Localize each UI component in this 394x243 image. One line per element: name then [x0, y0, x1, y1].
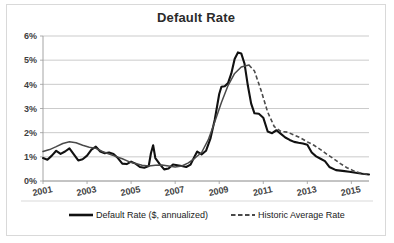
x-tick-label: 2013 [296, 184, 318, 198]
x-tick-label: 2007 [164, 184, 186, 198]
legend-label-default-rate: Default Rate ($, annualized) [96, 210, 208, 220]
x-tick-label: 2011 [252, 184, 273, 198]
series-line-historic-average-solid-part [43, 65, 249, 167]
y-axis-tick-labels: 0%1%2%3%4%5%6% [24, 31, 37, 186]
data-series-layer [43, 52, 369, 174]
series-line-default-rate [43, 52, 369, 174]
y-tick-label: 1% [24, 152, 37, 162]
y-tick-label: 2% [24, 128, 37, 138]
y-tick-label: 5% [24, 55, 37, 65]
series-line-historic-average-dashed-part [249, 65, 369, 174]
x-tick-label: 2003 [76, 184, 98, 198]
y-tick-label: 0% [24, 176, 37, 186]
default-rate-line-chart: 0%1%2%3%4%5%6% 2001200320052007200920112… [7, 5, 387, 237]
y-tick-label: 4% [24, 80, 37, 90]
axes [40, 36, 369, 184]
legend-label-historic-average: Historic Average Rate [258, 210, 345, 220]
chart-card: Default Rate 0%1%2%3%4%5%6% 200120032005… [6, 4, 386, 236]
x-axis-tick-labels: 20012003200520072009201120132015 [32, 184, 362, 198]
x-tick-label: 2015 [340, 184, 362, 198]
chart-legend: Default Rate ($, annualized)Historic Ave… [21, 201, 373, 220]
y-tick-label: 3% [24, 104, 37, 114]
x-tick-label: 2005 [120, 184, 142, 198]
y-tick-label: 6% [24, 31, 37, 41]
x-tick-label: 2009 [208, 184, 230, 198]
